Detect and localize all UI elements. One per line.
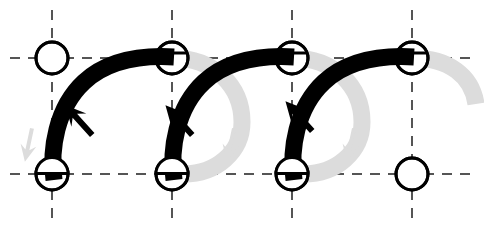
ghost-arrow-3: [17, 127, 40, 164]
node-highlight-layer: [36, 158, 308, 174]
node-crescent-n6: [156, 158, 188, 174]
diagram-canvas: [0, 0, 484, 233]
node-crescent-n7: [276, 158, 308, 174]
diagram-svg: [0, 0, 484, 233]
node-crescent-n5: [36, 158, 68, 174]
